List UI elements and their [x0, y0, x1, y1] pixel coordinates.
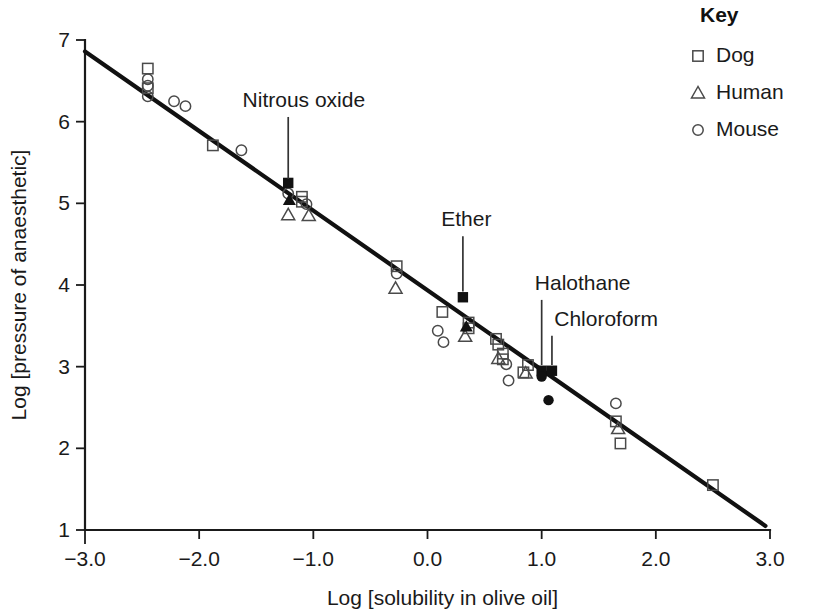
series-highlighted-anaesthetics: [283, 178, 557, 376]
legend-entry-label: Dog: [716, 43, 755, 66]
y-tick-label: 7: [58, 28, 70, 51]
annotation-label: Chloroform: [554, 307, 658, 330]
legend-entry-mouse: Mouse: [693, 117, 779, 140]
data-point-triangle-open: [282, 208, 295, 219]
annotation-nitrous-oxide: Nitrous oxide: [243, 88, 366, 179]
regression-line: [85, 51, 765, 525]
y-tick-label: 1: [58, 518, 70, 541]
data-point-circle-open: [611, 398, 621, 408]
legend-marker-square-open: [693, 51, 703, 61]
x-tick-label: 2.0: [641, 547, 670, 570]
data-point-square-filled: [547, 366, 557, 376]
data-point-square-open: [143, 63, 153, 73]
series-dog: [143, 63, 719, 490]
data-point-circle-filled: [543, 395, 553, 405]
legend-marker-circle-open: [693, 125, 703, 135]
x-tick-label: 0.0: [413, 547, 442, 570]
x-axis-title: Log [solubility in olive oil]: [327, 586, 558, 609]
y-tick-label: 6: [58, 110, 70, 133]
y-tick-label: 5: [58, 191, 70, 214]
annotation-label: Halothane: [535, 271, 631, 294]
data-point-square-open: [615, 438, 625, 448]
data-point-circle-open: [503, 375, 513, 385]
anaesthetic-potency-scatter-figure: 1234567 −3.0−2.0−1.00.01.02.03.0 Log [so…: [0, 0, 823, 616]
legend-entry-label: Mouse: [716, 117, 779, 140]
data-point-circle-open: [438, 337, 448, 347]
annotation-chloroform: Chloroform: [552, 307, 658, 365]
x-tick-label: −3.0: [64, 547, 105, 570]
data-point-square-filled: [283, 178, 293, 188]
x-tick-label: −1.0: [293, 547, 334, 570]
legend-marker-triangle-open: [692, 87, 705, 98]
annotation-label: Nitrous oxide: [243, 88, 366, 111]
y-axis-tick-labels: 1234567: [58, 28, 70, 541]
data-point-square-open: [437, 307, 447, 317]
y-tick-label: 4: [58, 273, 70, 296]
x-tick-label: 1.0: [527, 547, 556, 570]
data-point-triangle-open: [459, 330, 472, 341]
data-point-circle-open: [169, 96, 179, 106]
plot-canvas: 1234567 −3.0−2.0−1.00.01.02.03.0 Log [so…: [0, 0, 823, 616]
data-markers-group: [143, 63, 719, 490]
legend-entry-label: Human: [716, 80, 784, 103]
annotation-label: Ether: [441, 207, 491, 230]
data-point-circle-open: [180, 101, 190, 111]
data-point-circle-open: [433, 326, 443, 336]
y-axis-ticks: [76, 40, 85, 530]
legend: Key DogHumanMouse: [692, 3, 784, 140]
legend-entry-dog: Dog: [693, 43, 755, 66]
y-axis-title: Log [pressure of anaesthetic]: [7, 150, 30, 421]
x-tick-label: −2.0: [178, 547, 219, 570]
data-point-square-filled: [458, 292, 468, 302]
y-tick-label: 3: [58, 355, 70, 378]
data-point-triangle-open: [519, 367, 532, 378]
legend-title: Key: [700, 3, 739, 26]
legend-entries: DogHumanMouse: [692, 43, 784, 140]
y-tick-label: 2: [58, 436, 70, 459]
x-axis-tick-labels: −3.0−2.0−1.00.01.02.03.0: [64, 547, 784, 570]
legend-entry-human: Human: [692, 80, 784, 103]
data-point-circle-open: [236, 145, 246, 155]
series-mouse: [143, 74, 621, 409]
x-axis-ticks: [85, 530, 770, 544]
data-point-circle-open: [143, 81, 153, 91]
x-tick-label: 3.0: [755, 547, 784, 570]
annotation-ether: Ether: [441, 207, 491, 291]
annotation-group: Nitrous oxideEtherHalothaneChloroform: [243, 88, 659, 365]
data-point-triangle-open: [389, 282, 402, 293]
data-point-circle-filled: [536, 371, 546, 381]
